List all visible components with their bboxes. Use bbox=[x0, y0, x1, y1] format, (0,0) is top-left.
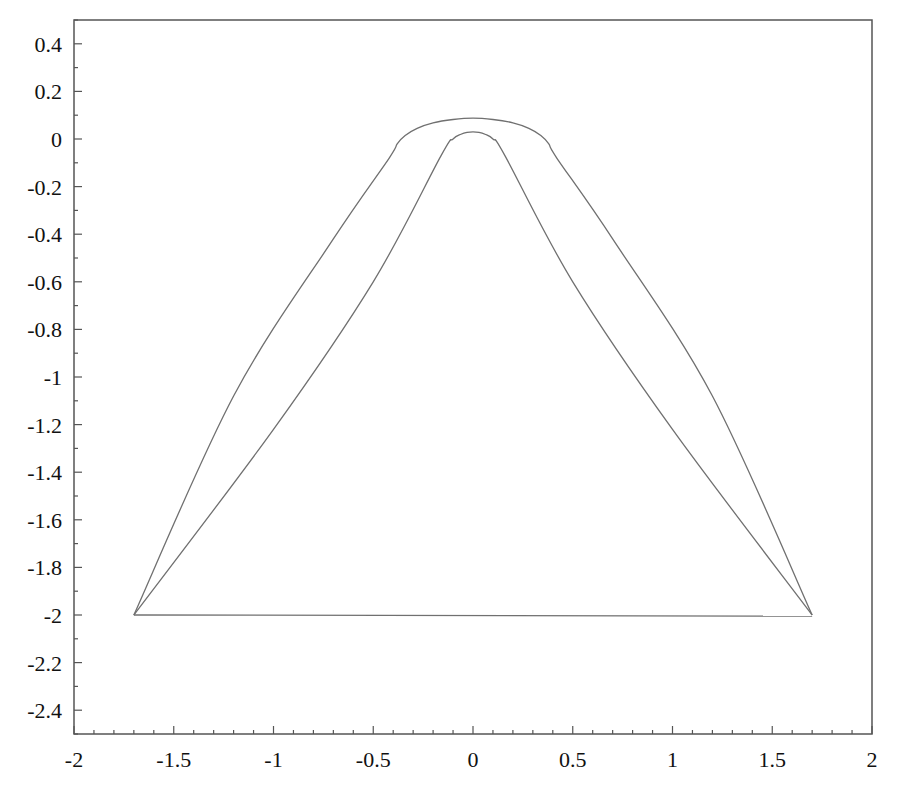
x-tick-label: -1.5 bbox=[156, 747, 191, 772]
y-tick-label: -0.2 bbox=[27, 175, 62, 200]
y-tick-label: 0.2 bbox=[35, 79, 63, 104]
y-tick-label: 0 bbox=[51, 127, 62, 152]
y-tick-label: -1.6 bbox=[27, 508, 62, 533]
x-tick-label: 1.5 bbox=[759, 747, 787, 772]
plot-frame bbox=[74, 20, 872, 734]
y-tick-label: 0.4 bbox=[35, 32, 63, 57]
y-tick-label: -0.4 bbox=[27, 222, 62, 247]
curve-series bbox=[134, 118, 812, 616]
y-tick-label: -1.4 bbox=[27, 460, 62, 485]
inner-curve-line bbox=[134, 132, 812, 615]
y-tick-label: -0.6 bbox=[27, 270, 62, 295]
y-tick-label: -2.4 bbox=[27, 698, 62, 723]
x-tick-label: -1 bbox=[264, 747, 282, 772]
base-segment-line bbox=[134, 615, 812, 616]
y-tick-label: -1.8 bbox=[27, 555, 62, 580]
y-axis-tick-labels: 0.40.20-0.2-0.4-0.6-0.8-1-1.2-1.4-1.6-1.… bbox=[27, 32, 62, 723]
x-tick-label: 0 bbox=[468, 747, 479, 772]
y-tick-label: -2.2 bbox=[27, 651, 62, 676]
x-tick-label: 2 bbox=[867, 747, 878, 772]
axis-ticks bbox=[74, 20, 872, 734]
x-tick-label: 1 bbox=[667, 747, 678, 772]
y-tick-label: -2 bbox=[44, 603, 62, 628]
x-tick-label: -0.5 bbox=[356, 747, 391, 772]
y-tick-label: -1.2 bbox=[27, 413, 62, 438]
outer-curve-line bbox=[134, 118, 812, 615]
x-tick-label: -2 bbox=[65, 747, 83, 772]
plot-figure: -2-1.5-1-0.500.511.52 0.40.20-0.2-0.4-0.… bbox=[0, 0, 897, 801]
x-axis-tick-labels: -2-1.5-1-0.500.511.52 bbox=[65, 747, 878, 772]
y-tick-label: -0.8 bbox=[27, 317, 62, 342]
x-tick-label: 0.5 bbox=[559, 747, 587, 772]
y-tick-label: -1 bbox=[44, 365, 62, 390]
